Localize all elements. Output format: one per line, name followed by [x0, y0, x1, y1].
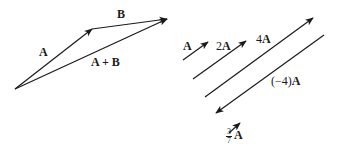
- label-scaled-3-7a: 3 7 A: [226, 128, 243, 145]
- label-vector-a-plus-b: A + B: [91, 56, 120, 68]
- label-scaled-a: A: [183, 40, 192, 52]
- coef-neg4: (−4): [271, 74, 292, 88]
- frac-numerator: 3: [227, 128, 231, 136]
- label-vector-a: A: [39, 46, 48, 58]
- label-scaled-4a: 4A: [256, 33, 271, 45]
- label-scaled-2a: 2A: [216, 40, 231, 52]
- vector-arrow-right-neg4a: [216, 35, 324, 113]
- vec-a: A: [292, 74, 301, 88]
- label-vector-b: B: [117, 8, 125, 20]
- vec-a: A: [222, 39, 231, 53]
- frac-denominator: 7: [227, 137, 231, 145]
- vec-a: A: [234, 128, 243, 142]
- vec-a: A: [262, 32, 271, 46]
- fraction-3-7: 3 7: [226, 128, 232, 145]
- label-scaled-neg4a: (−4)A: [271, 75, 300, 87]
